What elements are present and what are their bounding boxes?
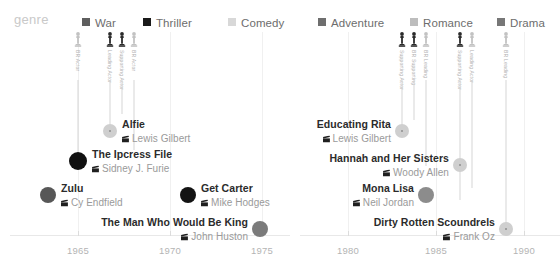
film-dot[interactable]: [69, 152, 87, 170]
film-dot[interactable]: [395, 124, 409, 138]
award-category-label: BR Actor: [131, 50, 137, 71]
clapperboard-icon: [443, 229, 450, 236]
film-title: Dirty Rotten Scoundrels: [374, 216, 495, 228]
film-dot[interactable]: [252, 221, 268, 237]
film-director-row: Neil Jordan: [353, 194, 414, 209]
film-label-group: Get CarterMike Hodges: [201, 182, 270, 209]
film-director-row: John Huston: [101, 228, 248, 243]
award-category-label: BR Actor: [75, 50, 81, 71]
film-dot[interactable]: [180, 187, 196, 203]
film-title: Mona Lisa: [353, 182, 414, 194]
award-category-label: BR Leading: [423, 50, 429, 78]
oscar-statuette-icon: [456, 32, 465, 52]
legend-title: genre: [14, 12, 49, 27]
oscar-statuette-icon: [422, 32, 431, 52]
oscar-statuette-icon: [106, 32, 115, 52]
film-entry[interactable]: Hannah and Her SistersWoody Allen: [300, 152, 560, 178]
film-dot-center: [505, 228, 507, 230]
film-director: Neil Jordan: [363, 196, 414, 209]
film-label-group: AlfieLewis Gilbert: [122, 118, 190, 145]
clapperboard-icon: [353, 195, 360, 202]
film-label-group: Dirty Rotten ScoundrelsFrank Oz: [374, 216, 495, 243]
film-label-group: The Man Who Would Be KingJohn Huston: [101, 216, 248, 243]
legend-item-comedy[interactable]: Comedy: [228, 13, 284, 27]
film-director-row: Woody Allen: [329, 164, 449, 179]
clapperboard-icon: [201, 195, 208, 202]
film-dot[interactable]: [453, 158, 467, 172]
film-director: Lewis Gilbert: [333, 132, 391, 145]
film-director: Mike Hodges: [211, 196, 270, 209]
legend-swatch-icon: [410, 18, 418, 26]
legend-item-thriller[interactable]: Thriller: [143, 13, 192, 27]
panel-left: 196519701975BR ActorLeading ActorSupport…: [10, 32, 290, 268]
award-drop-line: [122, 80, 123, 114]
legend-swatch-icon: [82, 18, 90, 26]
clapperboard-icon: [323, 131, 330, 138]
clapperboard-icon: [122, 131, 129, 138]
film-dot-center: [459, 164, 461, 166]
film-entry[interactable]: The Man Who Would Be KingJohn Huston: [10, 216, 290, 242]
axis-tick-label: 1965: [67, 245, 89, 256]
film-director: Sidney J. Furie: [102, 162, 169, 175]
film-director: Frank Oz: [453, 230, 495, 243]
clapperboard-icon: [383, 165, 390, 172]
legend-item-label: War: [95, 17, 116, 29]
oscar-statuette-icon: [118, 32, 127, 52]
legend-item-drama[interactable]: Drama: [497, 13, 545, 27]
clapperboard-icon: [181, 229, 188, 236]
oscar-statuette-icon: [398, 32, 407, 52]
legend-item-label: Thriller: [156, 17, 192, 29]
film-entry[interactable]: AlfieLewis Gilbert: [10, 118, 290, 144]
oscar-statuette-icon: [74, 32, 83, 52]
film-title: Hannah and Her Sisters: [329, 152, 449, 164]
film-title: Alfie: [122, 118, 190, 130]
film-label-group: Educating RitaLewis Gilbert: [317, 118, 391, 145]
clapperboard-icon: [92, 161, 99, 168]
film-entry[interactable]: Mona LisaNeil Jordan: [300, 182, 560, 208]
film-director: John Huston: [191, 230, 248, 243]
legend-item-adventure[interactable]: Adventure: [318, 13, 384, 27]
legend-item-romance[interactable]: Romance: [410, 13, 473, 27]
film-director: Lewis Gilbert: [132, 132, 190, 145]
legend-swatch-icon: [228, 18, 236, 26]
award-drop-line: [414, 80, 415, 120]
legend-swatch-icon: [318, 18, 326, 26]
oscar-statuette-icon: [410, 32, 419, 52]
film-entry[interactable]: Dirty Rotten ScoundrelsFrank Oz: [300, 216, 560, 242]
film-title: The Ipcress File: [92, 148, 172, 160]
legend-item-war[interactable]: War: [82, 13, 116, 27]
legend-swatch-icon: [497, 18, 505, 26]
film-dot[interactable]: [418, 187, 434, 203]
legend-swatch-icon: [143, 18, 151, 26]
film-label-group: Hannah and Her SistersWoody Allen: [329, 152, 449, 179]
film-dot-center: [401, 130, 403, 132]
award-category-label: BR Leading: [503, 50, 509, 78]
panel-right: 198019851990Supporting ActorBR Supportin…: [300, 32, 560, 268]
legend-item-label: Comedy: [241, 17, 284, 29]
film-dot-center: [109, 130, 111, 132]
axis-tick-label: 1970: [159, 245, 181, 256]
film-title: Educating Rita: [317, 118, 391, 130]
film-entry[interactable]: Educating RitaLewis Gilbert: [300, 118, 560, 144]
oscar-statuette-icon: [502, 32, 511, 52]
film-director-row: Frank Oz: [374, 228, 495, 243]
axis-tick-label: 1975: [251, 245, 273, 256]
film-director-row: Lewis Gilbert: [122, 130, 190, 145]
film-entry[interactable]: Get CarterMike Hodges: [10, 182, 290, 208]
film-dot[interactable]: [499, 222, 513, 236]
genre-legend: genre WarThrillerComedyAdventureRomanceD…: [0, 10, 560, 32]
award-category-label: Leading Actor: [107, 50, 113, 83]
legend-item-label: Drama: [510, 17, 545, 29]
oscar-statuette-icon: [468, 32, 477, 52]
film-dot[interactable]: [103, 124, 117, 138]
film-label-group: Mona LisaNeil Jordan: [353, 182, 414, 209]
legend-item-label: Adventure: [331, 17, 384, 29]
film-director: Woody Allen: [393, 166, 449, 179]
axis-tick-label: 1990: [513, 245, 535, 256]
film-director-row: Mike Hodges: [201, 194, 270, 209]
award-category-label: Leading Actor: [469, 50, 475, 83]
legend-item-label: Romance: [423, 17, 473, 29]
oscar-statuette-icon: [130, 32, 139, 52]
film-entry[interactable]: The Ipcress FileSidney J. Furie: [10, 148, 290, 174]
axis-tick-label: 1980: [337, 245, 359, 256]
